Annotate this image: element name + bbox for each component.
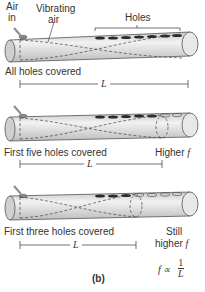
vibrating-label-1: Vibrating [36, 3, 75, 14]
panel-label: (b) [92, 273, 105, 284]
still-label: Still [166, 226, 182, 237]
vibrating-label-2: air [48, 14, 59, 25]
three-covered-label: First three holes covered [4, 226, 114, 237]
tube-five-covered [5, 106, 198, 168]
five-covered-label: First five holes covered [4, 147, 107, 158]
length-label-1: L [98, 78, 110, 89]
still-higher-label: higher f [155, 238, 188, 249]
air-in-label-1: Air [6, 1, 18, 12]
air-in-label-2: in [8, 12, 16, 23]
length-label-2: L [84, 158, 96, 169]
inverse-L-fraction: 1 L [178, 258, 184, 279]
holes-label: Holes [125, 12, 151, 23]
length-label-3: L [70, 239, 82, 250]
fraction-denominator: L [178, 269, 184, 279]
proportional-label: f ∝ [158, 264, 170, 275]
all-covered-label: All holes covered [5, 66, 81, 77]
higher-label: Higher f [155, 147, 190, 158]
